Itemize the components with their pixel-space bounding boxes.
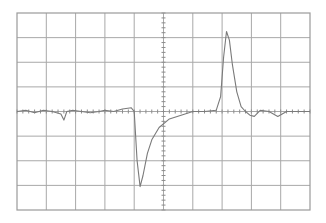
oscilloscope-display <box>0 0 326 223</box>
